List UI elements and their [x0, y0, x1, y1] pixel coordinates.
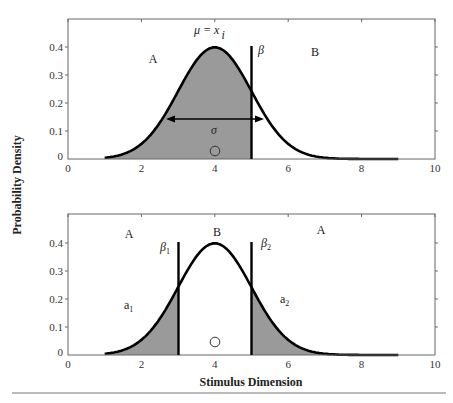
x-tick-label: 10 [430, 162, 442, 174]
y-tick-label: 0.4 [49, 41, 63, 53]
bottom-shaded-area-a1 [105, 287, 178, 355]
x-tick-label: 0 [65, 358, 71, 370]
bottom-region-A-left-label: A [125, 227, 134, 241]
top-region-A-label: A [149, 52, 158, 66]
x-axis-title: Stimulus Dimension [199, 375, 302, 389]
top-region-B-label: B [311, 45, 319, 59]
y-tick-label: 0.4 [49, 237, 63, 249]
a1-subscript: 1 [129, 305, 133, 314]
bottom-ticks: 024681000.10.20.30.4 [49, 214, 441, 370]
x-tick-label: 8 [359, 358, 365, 370]
bottom-panel: 024681000.10.20.30.4 A B A β1 β2 a1 a2 S… [49, 214, 441, 389]
a1-label: a1 [124, 298, 133, 314]
x-tick-label: 10 [430, 358, 442, 370]
beta2-label: β2 [260, 236, 271, 252]
x-tick-label: 0 [65, 162, 71, 174]
bottom-shaded-area-a2 [252, 287, 399, 355]
y-tick-label: 0.2 [49, 97, 63, 109]
y-tick-label: 0 [58, 150, 64, 162]
y-tick-label: 0.1 [49, 125, 63, 137]
x-tick-label: 6 [285, 162, 291, 174]
figure: Probability Density 024681000.10.20.30.4… [0, 0, 453, 403]
beta1-label: β1 [159, 240, 170, 256]
mean-label: μ = xi [193, 23, 225, 42]
x-tick-label: 2 [139, 358, 145, 370]
y-tick-label: 0.3 [49, 69, 63, 81]
x-tick-label: 2 [139, 162, 145, 174]
beta2-text: β [260, 236, 267, 250]
y-tick-label: 0.1 [49, 321, 63, 333]
bottom-stimulus-marker [210, 337, 220, 347]
x-tick-label: 8 [359, 162, 365, 174]
x-tick-label: 4 [212, 358, 218, 370]
beta2-subscript: 2 [267, 243, 271, 252]
y-tick-label: 0.2 [49, 293, 63, 305]
top-beta-label: β [257, 43, 264, 57]
x-tick-label: 4 [212, 162, 218, 174]
mean-label-text: μ = x [193, 23, 220, 37]
beta1-text: β [159, 240, 166, 254]
a2-subscript: 2 [285, 299, 289, 308]
bottom-region-B-label: B [213, 225, 221, 239]
sigma-arrowhead-right [255, 116, 264, 123]
beta1-subscript: 1 [166, 247, 170, 256]
y-tick-label: 0 [58, 346, 64, 358]
bottom-region-A-right-label: A [317, 223, 326, 237]
y-tick-label: 0.3 [49, 265, 63, 277]
top-panel: 024681000.10.20.30.4 σ A B β μ = xi [49, 19, 441, 174]
x-tick-label: 6 [285, 358, 291, 370]
top-shaded-area [105, 47, 252, 159]
y-axis-title: Probability Density [10, 135, 24, 234]
mean-label-subscript: i [221, 28, 224, 42]
a2-label: a2 [280, 292, 289, 308]
